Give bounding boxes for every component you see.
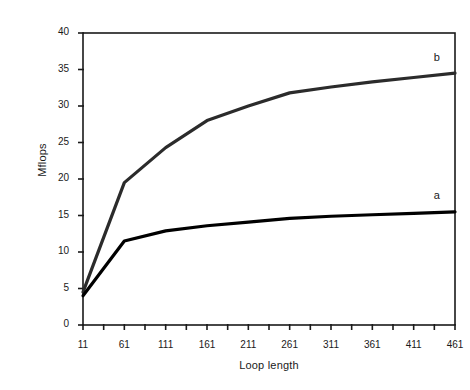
y-axis-title: Mflops xyxy=(36,120,48,200)
y-tick-label: 25 xyxy=(43,136,69,147)
y-tick-label: 5 xyxy=(43,282,69,293)
series-line-a xyxy=(83,212,455,296)
chart-series-group xyxy=(83,73,455,296)
y-tick-label: 10 xyxy=(43,245,69,256)
series-line-b xyxy=(83,73,455,292)
chart-plot-area xyxy=(0,0,470,390)
y-tick-label: 30 xyxy=(43,99,69,110)
x-tick-label: 361 xyxy=(352,339,392,350)
x-tick-label: 411 xyxy=(394,339,434,350)
x-tick-label: 311 xyxy=(311,339,351,350)
series-label-b: b xyxy=(434,51,440,63)
series-label-a: a xyxy=(434,189,440,201)
x-tick-label: 11 xyxy=(63,339,103,350)
x-tick-label: 61 xyxy=(104,339,144,350)
x-tick-label: 261 xyxy=(270,339,310,350)
x-tick-label: 111 xyxy=(146,339,186,350)
x-tick-label: 211 xyxy=(228,339,268,350)
x-tick-label: 461 xyxy=(435,339,470,350)
y-tick-label: 15 xyxy=(43,209,69,220)
y-tick-label: 40 xyxy=(43,26,69,37)
plot-frame xyxy=(83,33,455,325)
x-tick-label: 161 xyxy=(187,339,227,350)
y-tick-label: 35 xyxy=(43,63,69,74)
y-tick-label: 20 xyxy=(43,172,69,183)
y-tick-label: 0 xyxy=(43,318,69,329)
x-axis-title: Loop length xyxy=(83,359,455,371)
chart-figure: Mflops Loop length 0510152025303540 1161… xyxy=(0,0,470,390)
